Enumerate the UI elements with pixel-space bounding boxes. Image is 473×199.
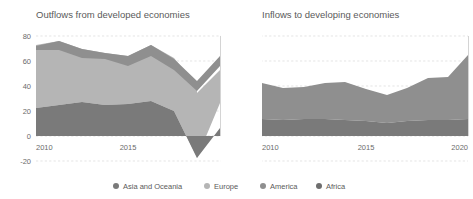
legend-label-america: America: [270, 182, 298, 191]
y-tick-60: 60: [23, 57, 31, 66]
y-tick-0: 0: [27, 132, 31, 141]
right-panel-left-mask: [241, 30, 262, 165]
right-area-asia: [262, 119, 468, 136]
y-tick-80: 80: [23, 32, 31, 41]
legend-label-asia-and-oceania: Asia and Oceania: [123, 182, 183, 191]
left-x-tick-2015: 2015: [120, 143, 137, 152]
legend-swatch-europe: [204, 183, 210, 189]
legend-swatch-asia-and-oceania: [113, 183, 119, 189]
legend-label-africa: Africa: [326, 182, 346, 191]
stacked-area-chart-figure: 80 60 40 20 0 -20 Outflows from develope…: [0, 0, 473, 199]
left-x-tick-2010: 2010: [36, 143, 53, 152]
legend-swatch-america: [260, 183, 266, 189]
left-panel-title: Outflows from developed economies: [36, 9, 190, 20]
legend-label-europe: Europe: [214, 182, 238, 191]
y-tick-20: 20: [23, 107, 31, 116]
right-x-tick-2010: 2010: [262, 143, 279, 152]
right-x-tick-2015: 2015: [358, 143, 375, 152]
y-tick-minus20: -20: [20, 157, 31, 166]
right-panel-title: Inflows to developing economies: [262, 9, 400, 20]
left-panel-right-mask: [221, 30, 241, 165]
legend-swatch-africa: [316, 183, 322, 189]
y-tick-40: 40: [23, 82, 31, 91]
right-x-tick-2020: 2020: [451, 143, 468, 152]
